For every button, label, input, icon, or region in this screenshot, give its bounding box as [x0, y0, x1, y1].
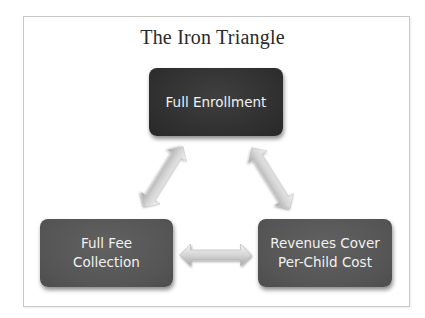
node-label: Full Enrollment — [166, 93, 267, 112]
node-revenues-cover-cost: Revenues Cover Per-Child Cost — [258, 219, 392, 287]
node-label-line-2: Per-Child Cost — [270, 253, 380, 272]
node-label-line-1: Revenues Cover — [270, 234, 380, 253]
node-label-line-1: Full Fee — [73, 234, 140, 253]
node-full-fee-collection: Full Fee Collection — [40, 219, 173, 287]
node-full-enrollment: Full Enrollment — [149, 68, 283, 136]
diagram-title: The Iron Triangle — [0, 26, 425, 49]
node-label-line-2: Collection — [73, 253, 140, 272]
